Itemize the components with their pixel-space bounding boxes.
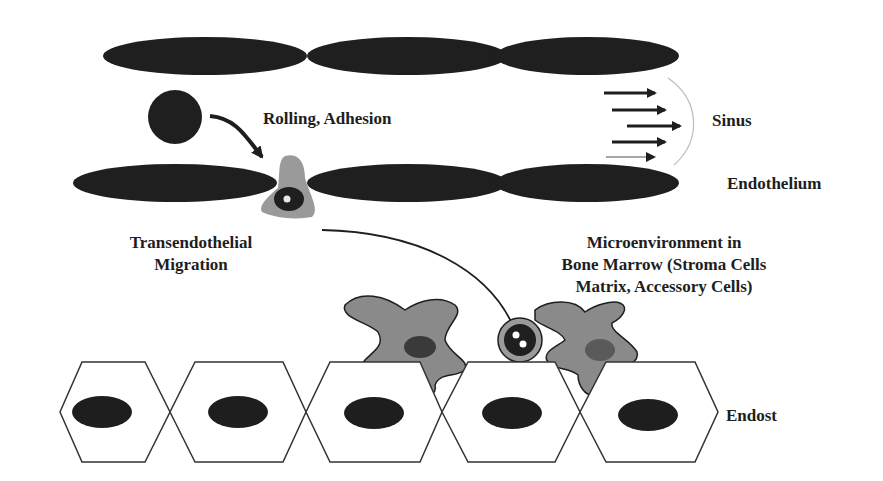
homed-cell xyxy=(498,318,542,362)
endothelial-cell xyxy=(103,37,307,75)
sinus-flow-arrows xyxy=(604,78,694,165)
label-endost: Endost xyxy=(726,406,777,425)
stroma-nucleus xyxy=(585,339,615,361)
adhesion-arrow xyxy=(210,116,262,157)
circulating-cell xyxy=(148,90,202,144)
endost-cell xyxy=(442,362,580,462)
endothelium-bottom-row xyxy=(73,164,679,202)
label-transendothelial-2: Migration xyxy=(154,255,228,274)
endost-cell xyxy=(170,362,306,462)
label-micro-1: Microenvironment in xyxy=(587,233,742,252)
endothelial-cell xyxy=(495,37,679,75)
label-rolling-adhesion: Rolling, Adhesion xyxy=(263,109,392,128)
label-micro-2: Bone Marrow (Stroma Cells xyxy=(562,255,767,274)
homing-diagram: Rolling, Adhesion Sinus Endothelium Tran… xyxy=(0,0,883,481)
label-sinus: Sinus xyxy=(712,111,752,130)
label-micro-3: Matrix, Accessory Cells) xyxy=(575,277,752,296)
endothelium-top-row xyxy=(103,37,679,75)
endost-layer xyxy=(60,362,718,462)
endothelial-cell xyxy=(307,164,507,202)
endothelial-cell xyxy=(73,164,277,202)
endothelial-cell xyxy=(495,164,679,202)
endost-cell xyxy=(60,362,170,462)
endothelial-cell xyxy=(307,37,507,75)
endost-cell xyxy=(306,362,442,462)
label-endothelium: Endothelium xyxy=(727,174,821,193)
stroma-nucleus xyxy=(404,336,436,358)
flow-profile-curve xyxy=(668,78,694,165)
endost-cell xyxy=(580,362,718,462)
label-transendothelial-1: Transendothelial xyxy=(130,233,253,252)
